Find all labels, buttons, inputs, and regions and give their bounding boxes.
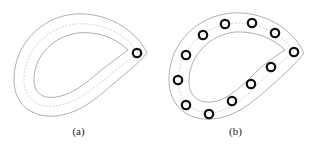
caption-a: (a) [0, 125, 157, 137]
marker-circles [174, 19, 298, 118]
caption-b: (b) [157, 125, 314, 137]
panel-a: (a) [0, 0, 157, 153]
marker-circle-icon [133, 49, 141, 57]
panel-b: (b) [157, 0, 314, 153]
